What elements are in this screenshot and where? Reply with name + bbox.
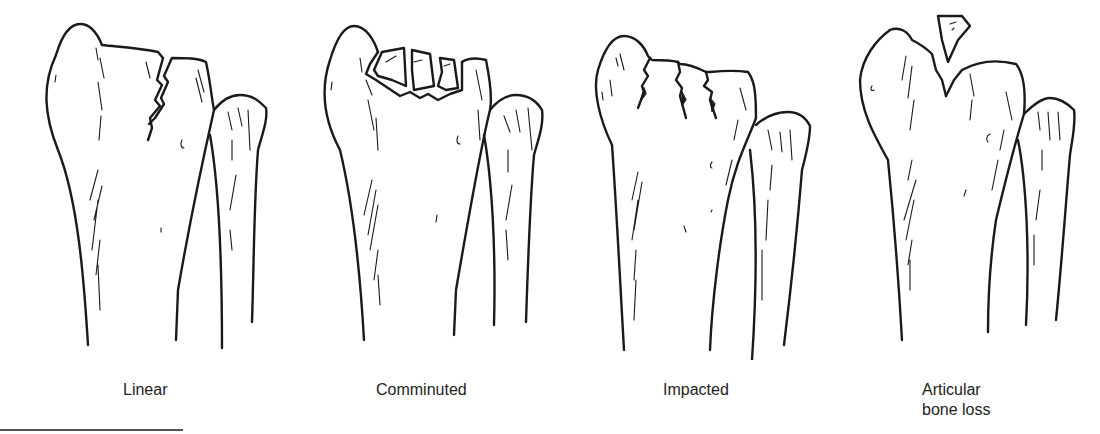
panel-impacted xyxy=(560,0,840,360)
articular-bone-loss-illustration xyxy=(830,0,1100,360)
label-comminuted: Comminuted xyxy=(376,380,467,400)
footnote-rule xyxy=(0,429,183,431)
panel-linear xyxy=(0,0,280,360)
panel-articular-bone-loss xyxy=(830,0,1100,360)
impacted-fracture-illustration xyxy=(560,0,840,360)
panel-comminuted xyxy=(280,0,560,360)
label-linear: Linear xyxy=(123,380,167,400)
linear-fracture-illustration xyxy=(0,0,280,360)
label-articular-line2: bone loss xyxy=(922,400,991,420)
label-articular-line1: Articular xyxy=(922,380,991,400)
comminuted-fracture-illustration xyxy=(280,0,560,360)
label-articular-bone-loss: Articular bone loss xyxy=(922,380,991,420)
label-impacted: Impacted xyxy=(663,380,729,400)
